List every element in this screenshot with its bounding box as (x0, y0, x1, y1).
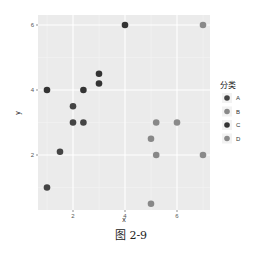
data-point-a (57, 148, 64, 155)
x-tick-label: 2 (71, 213, 75, 219)
legend-label: B (236, 109, 240, 115)
data-point-b (153, 152, 160, 159)
data-point-d (200, 152, 207, 159)
scatter-chart: 246 246 x y 分类 ABCD (0, 0, 262, 225)
data-point-c (96, 80, 103, 87)
legend-title: 分类 (220, 80, 236, 90)
data-point-d (174, 119, 181, 126)
legend: 分类 ABCD (220, 80, 241, 144)
data-point-b (153, 119, 160, 126)
x-axis-title: x (122, 216, 126, 223)
data-point-d (200, 22, 207, 29)
x-tick-label: 6 (175, 213, 179, 219)
legend-label: A (236, 95, 240, 101)
data-point-c (44, 87, 51, 94)
legend-key-c (224, 122, 230, 128)
data-point-a (70, 119, 77, 126)
data-point-b (148, 200, 155, 207)
y-tick-label: 4 (31, 87, 35, 93)
legend-label: C (236, 122, 241, 128)
data-point-a (70, 103, 77, 110)
data-point-c (80, 87, 87, 94)
y-axis-ticks: 246 (31, 22, 38, 158)
plot-panel (38, 15, 210, 210)
y-tick-label: 2 (31, 152, 35, 158)
figure-caption: 图 2-9 (0, 226, 262, 242)
legend-key-a (224, 95, 230, 101)
y-axis-title: y (14, 111, 22, 115)
legend-label: D (236, 136, 241, 142)
y-tick-label: 6 (31, 22, 35, 28)
data-point-c (122, 22, 129, 29)
data-point-a (80, 119, 87, 126)
data-point-c (96, 70, 103, 77)
legend-key-d (224, 136, 230, 142)
data-point-b (148, 135, 155, 142)
data-point-a (44, 184, 51, 191)
legend-key-b (224, 109, 230, 115)
